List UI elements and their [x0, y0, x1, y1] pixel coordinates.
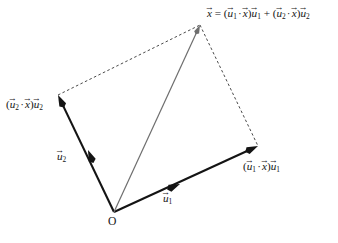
label-projection-onto-u2: (u→2·x→)u→2: [6, 99, 43, 111]
x-vector-glyph: x→: [25, 99, 30, 110]
x-vector-glyph: x→: [262, 161, 267, 172]
vector-proj_u1-arrowhead: [245, 146, 258, 154]
vector-diagram-canvas: [0, 0, 338, 243]
vector-decomposition-figure: x→ = (u→1·x→)u→1 + (u→2·x→)u→2 (u→2·x→)u…: [0, 0, 338, 243]
u2-vector-glyph: u→: [34, 99, 40, 110]
x-vector-glyph: x→: [243, 8, 248, 19]
u2-vector-glyph: u→: [276, 8, 282, 19]
u1-vector-glyph: u→: [271, 161, 277, 172]
label-unit-vector-u1: u→1: [163, 193, 172, 205]
label-x-decomposition-equation: x→ = (u→1·x→)u→1 + (u→2·x→)u→2: [207, 8, 310, 20]
u2-vector-glyph: u→: [10, 99, 16, 110]
vector-u1-arrowhead: [167, 184, 180, 192]
vector-proj_u2-shaft: [61, 102, 114, 212]
vector-x-shaft: [114, 30, 198, 212]
label-origin-point: O: [108, 216, 116, 228]
u1-vector-glyph: u→: [163, 193, 169, 204]
u1-vector-glyph: u→: [252, 8, 258, 19]
label-projection-onto-u1: (u→1·x→)u→1: [243, 161, 280, 173]
u1-vector-glyph: u→: [247, 161, 253, 172]
x-vector-glyph: x→: [207, 8, 212, 19]
vector-proj_u1-shaft: [114, 149, 251, 212]
vector-proj_u2-arrowhead: [58, 95, 66, 108]
x-vector-glyph: x→: [292, 8, 297, 19]
vector-u2-arrowhead: [88, 150, 96, 163]
u2-vector-glyph: u→: [300, 8, 306, 19]
u2-vector-glyph: u→: [57, 151, 63, 162]
u1-vector-glyph: u→: [228, 8, 234, 19]
dashed-top-left-line: [58, 25, 200, 95]
label-unit-vector-u2: u→2: [57, 151, 66, 163]
dashed-right-line: [200, 25, 258, 146]
